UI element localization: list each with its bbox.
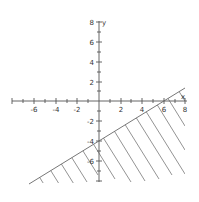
x-tick-label: 4 bbox=[140, 106, 145, 114]
y-tick-label: 2 bbox=[90, 79, 94, 87]
x-tick-label: -2 bbox=[74, 106, 81, 114]
x-tick-label: 6 bbox=[162, 106, 167, 114]
y-tick-label: 8 bbox=[90, 19, 94, 27]
y-tick-label: 6 bbox=[90, 39, 95, 47]
y-axis bbox=[96, 21, 102, 182]
inequality-graph: -6 -4 -2 2 4 6 8 8 6 4 2 -2 -4 -6 y x bbox=[0, 0, 199, 202]
x-tick-label: 8 bbox=[183, 106, 187, 114]
y-tick-label: -2 bbox=[87, 118, 94, 126]
y-tick-label: 4 bbox=[90, 59, 95, 67]
x-tick-label: 2 bbox=[119, 106, 123, 114]
y-tick-label: -6 bbox=[87, 158, 95, 166]
x-tick-label: -6 bbox=[31, 106, 39, 114]
x-tick-label: -4 bbox=[53, 106, 61, 114]
x-tick-labels: -6 -4 -2 2 4 6 8 bbox=[31, 106, 188, 114]
y-tick-label: -4 bbox=[87, 138, 95, 146]
x-axis-label: x bbox=[181, 93, 185, 101]
y-axis-label: y bbox=[102, 19, 106, 27]
y-tick-labels: 8 6 4 2 -2 -4 -6 bbox=[87, 19, 95, 166]
